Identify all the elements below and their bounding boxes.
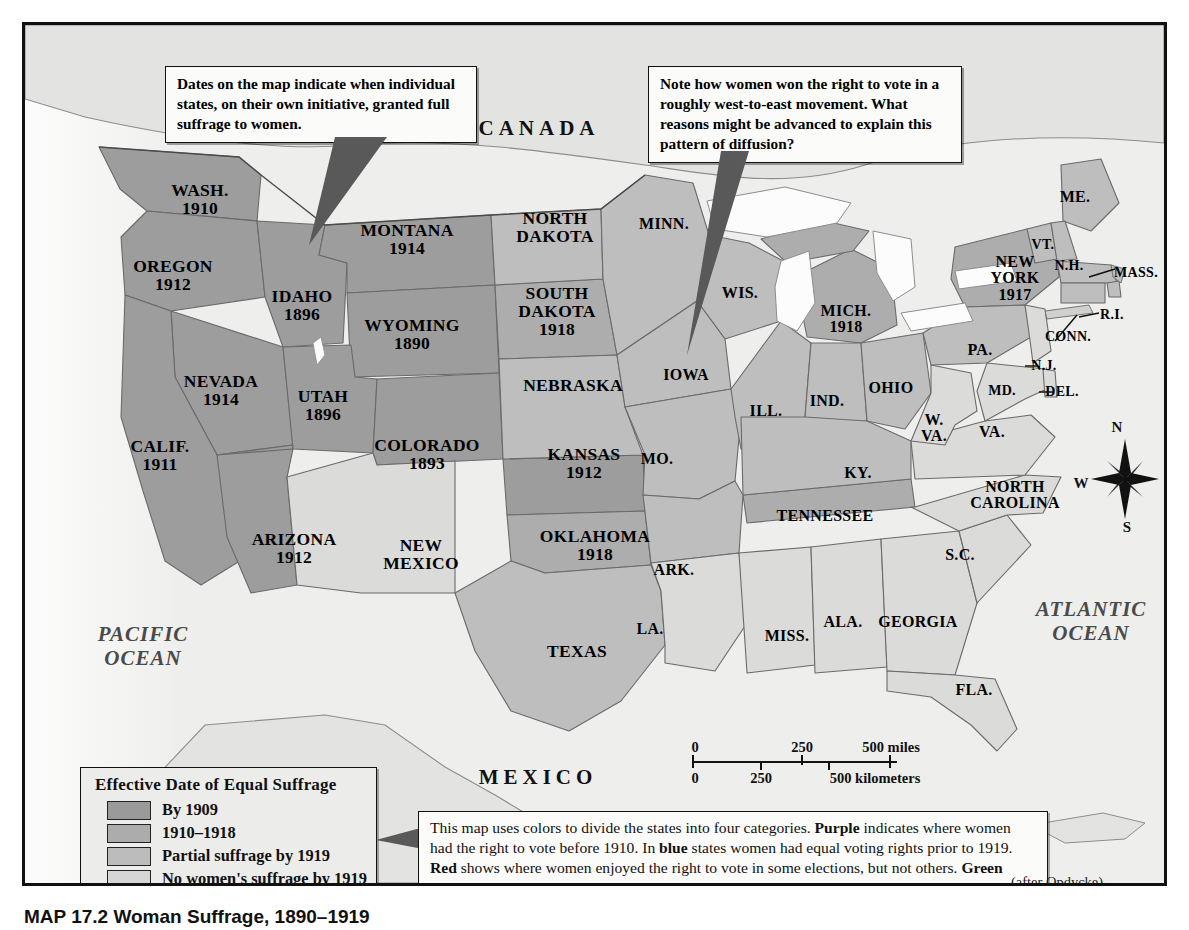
map-explanation-text: This map uses colors to divide the state…	[430, 818, 1037, 883]
scale-bar: 0 250 500 miles 0 250 500 kilometers	[685, 739, 930, 788]
legend-label: Partial suffrage by 1919	[162, 846, 330, 866]
legend-swatch-green	[107, 870, 151, 884]
explanation-emphasis: blue	[659, 839, 688, 856]
figure-caption-text: MAP 17.2 Woman Suffrage, 1890–1919	[24, 906, 370, 927]
callout-dates-text: Dates on the map indicate when individua…	[177, 74, 465, 134]
scale-tick-mile-0	[692, 755, 694, 768]
scale-ruler	[685, 755, 930, 768]
scale-line	[693, 761, 897, 763]
scale-miles-250: 250	[791, 739, 813, 756]
callout-diffusion-note: Note how women won the right to vote in …	[648, 66, 962, 163]
us-map-graphic	[25, 25, 1164, 883]
scale-km-500: 500 kilometers	[830, 770, 921, 787]
callout-dates-note: Dates on the map indicate when individua…	[165, 66, 477, 143]
scale-tick-km-500	[828, 761, 830, 770]
legend-label: 1910–1918	[162, 823, 236, 843]
scale-tick-mile-500	[889, 755, 891, 768]
legend-item-blue: 1910–1918	[107, 823, 366, 843]
explanation-run: indicates the states where women could n…	[430, 879, 821, 883]
legend-item-red: Partial suffrage by 1919	[107, 846, 366, 866]
map-frame: CANADA MEXICO PACIFICOCEAN ATLANTICOCEAN…	[22, 22, 1167, 886]
legend-item-purple: By 1909	[107, 800, 366, 820]
scale-miles-0: 0	[691, 739, 698, 756]
legend-swatch-blue	[107, 824, 151, 843]
map-explanation-box: This map uses colors to divide the state…	[418, 811, 1048, 883]
legend-swatch-red	[107, 847, 151, 866]
scale-km-250: 250	[750, 770, 772, 787]
callout-diffusion-text: Note how women won the right to vote in …	[660, 74, 950, 154]
map-canvas: CANADA MEXICO PACIFICOCEAN ATLANTICOCEAN…	[25, 25, 1164, 883]
explanation-run: This map uses colors to divide the state…	[430, 819, 815, 836]
compass-west-label: W	[1074, 475, 1089, 492]
legend-swatch-purple	[107, 801, 151, 820]
scale-km-labels: 0 250 500 kilometers	[685, 770, 930, 788]
compass-north-label: N	[1112, 419, 1123, 436]
scale-km-0: 0	[691, 770, 698, 787]
scale-miles-500: 500 miles	[862, 739, 920, 756]
compass-rose: N E S W	[1073, 421, 1164, 533]
explanation-emphasis: Green	[961, 859, 1002, 876]
scale-miles-labels: 0 250 500 miles	[685, 739, 930, 755]
explanation-emphasis: Red	[430, 859, 457, 876]
map-credit: (after Opdycke)	[1011, 874, 1103, 884]
legend-title: Effective Date of Equal Suffrage	[95, 775, 366, 795]
compass-south-label: S	[1123, 519, 1131, 536]
explanation-run: states women had equal voting rights pri…	[688, 839, 1013, 856]
scale-tick-mile-250	[801, 755, 803, 765]
ocean-label-atlantic: ATLANTICOCEAN	[1036, 597, 1147, 645]
map-legend: Effective Date of Equal Suffrage By 1909…	[80, 767, 377, 883]
explanation-emphasis: Purple	[815, 819, 860, 836]
legend-label: By 1909	[162, 800, 218, 820]
legend-label: No women's suffrage by 1919	[162, 869, 367, 883]
legend-item-green: No women's suffrage by 1919	[107, 869, 366, 883]
legend-item-list: By 19091910–1918Partial suffrage by 1919…	[93, 800, 366, 883]
ocean-label-pacific: PACIFICOCEAN	[98, 622, 189, 670]
country-label-canada: CANADA	[479, 116, 600, 141]
scale-tick-km-250	[760, 761, 762, 770]
figure-caption: MAP 17.2 Woman Suffrage, 1890–1919	[24, 906, 1124, 928]
explanation-run: shows where women enjoyed the right to v…	[457, 859, 962, 876]
country-label-mexico: MEXICO	[479, 765, 598, 790]
